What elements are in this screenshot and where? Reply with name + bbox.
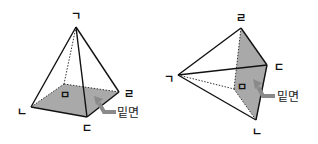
right-label-apex: ㄱ	[164, 73, 174, 86]
pyramids-diagram: ㄱ ㄴ ㄷ ㄹ ㅁ 밑면 ㄱ ㄴ ㄷ ㄹ ㅁ 밑면	[0, 0, 318, 144]
right-label-base-center: ㅁ	[237, 81, 247, 94]
left-pyramid: ㄱ ㄴ ㄷ ㄹ ㅁ 밑면	[17, 10, 139, 135]
right-label-bottom: ㄴ	[252, 126, 262, 139]
left-base-caption: 밑면	[117, 106, 139, 120]
left-label-front-right: ㄷ	[82, 122, 92, 135]
right-base-caption: 밑면	[277, 90, 299, 104]
right-label-top: ㄹ	[236, 12, 246, 25]
left-label-back-right: ㄹ	[124, 88, 134, 101]
left-label-front-left: ㄴ	[17, 106, 27, 119]
right-base-arrow-icon	[258, 87, 275, 96]
left-label-base-center: ㅁ	[60, 89, 70, 102]
left-label-apex: ㄱ	[71, 10, 81, 23]
right-label-right: ㄷ	[274, 61, 284, 74]
left-base-arrow-icon	[99, 103, 116, 112]
right-pyramid: ㄱ ㄴ ㄷ ㄹ ㅁ 밑면	[164, 12, 299, 139]
